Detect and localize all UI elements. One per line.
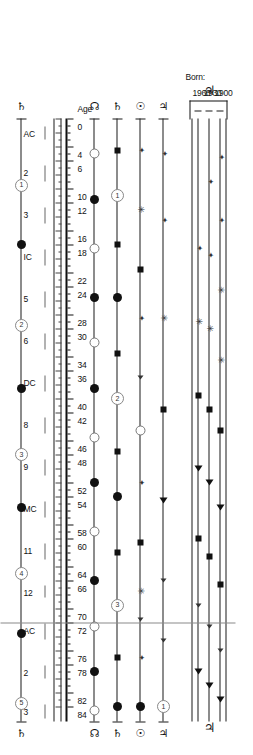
house-label-0: AC — [23, 129, 34, 138]
house-rule-3 — [44, 249, 45, 265]
saturn-symbol: ♄ — [112, 101, 122, 112]
age-minor-tick-67 — [58, 587, 61, 588]
marker-row-moon-12 — [89, 705, 99, 715]
age-tick-75 — [67, 643, 70, 644]
age-minor-tick-33 — [58, 349, 61, 350]
age-minor-tick-48 — [55, 454, 61, 455]
age-minor-tick-20 — [55, 258, 61, 259]
marker-cohort-1930-3 — [206, 406, 212, 412]
marker-row-saturn-4 — [114, 350, 120, 356]
age-tick-69 — [67, 601, 70, 602]
age-tick-68 — [67, 594, 70, 595]
house-label-4: 5 — [23, 294, 28, 303]
age-tick-label-40: 40 — [77, 402, 86, 411]
age-tick-47 — [67, 447, 70, 448]
age-tick-83 — [67, 699, 70, 700]
age-minor-tick-12 — [55, 202, 61, 203]
marker-row-saturn-6 — [114, 448, 120, 454]
age-minor-tick-51 — [58, 475, 61, 476]
marker-cohort-1960-5 — [195, 603, 201, 607]
age-tick-60 — [67, 538, 73, 539]
age-tick-label-22: 22 — [77, 276, 86, 285]
age-tick-46 — [67, 440, 73, 441]
age-minor-tick-41 — [58, 405, 61, 406]
age-tick-29 — [67, 321, 70, 322]
marker-cohort-1960-0: ✦ — [194, 244, 202, 251]
age-minor-tick-76 — [55, 650, 61, 651]
rail-row-jupiter — [162, 118, 163, 721]
age-tick-51 — [67, 475, 70, 476]
house-label-10: 11 — [23, 546, 31, 555]
age-minor-tick-77 — [58, 657, 61, 658]
age-minor-tick-65 — [58, 573, 61, 574]
age-tick-66 — [67, 580, 73, 581]
rail-cap-right-row-saturn — [112, 721, 122, 722]
age-minor-tick-37 — [58, 377, 61, 378]
age-tick-84 — [67, 706, 73, 707]
age-tick-61 — [67, 545, 70, 546]
marker-cohort-1900-3: ✳ — [216, 356, 225, 364]
marker-row-moon-2 — [89, 243, 99, 253]
rail-cap-right-row-moon — [89, 721, 99, 722]
marker-row-saturn-1: 1 — [111, 189, 124, 202]
age-minor-tick-24 — [55, 286, 61, 287]
marker-row-saturn-10 — [114, 654, 120, 660]
marker-row-saturn-7 — [113, 492, 122, 501]
age-tick-70 — [67, 608, 73, 609]
rail-cap-right-row-sun — [135, 721, 145, 722]
age-tick-55 — [67, 503, 70, 504]
age-tick-9 — [67, 181, 70, 182]
age-tick-label-46: 46 — [77, 444, 86, 453]
age-tick-43 — [67, 419, 70, 420]
age-tick-35 — [67, 363, 70, 364]
age-tick-label-42: 42 — [77, 416, 86, 425]
age-minor-tick-75 — [58, 643, 61, 644]
age-minor-tick-19 — [58, 251, 61, 252]
age-tick-77 — [67, 657, 70, 658]
marker-row-sun-9 — [137, 617, 143, 621]
age-minor-tick-64 — [55, 566, 61, 567]
age-minor-tick-80 — [55, 678, 61, 679]
age-tick-5 — [67, 153, 70, 154]
age-tick-67 — [67, 587, 70, 588]
age-minor-tick-26 — [55, 300, 61, 301]
rail-cap-right-row-jupiter — [158, 721, 168, 722]
age-minor-tick-53 — [58, 489, 61, 490]
age-tick-52 — [67, 482, 73, 483]
age-minor-tick-29 — [58, 321, 61, 322]
marker-row-moon-9 — [90, 576, 99, 585]
marker-cohort-1930-1: ✦ — [205, 251, 213, 258]
age-tick-26 — [67, 300, 70, 301]
age-tick-label-0: 0 — [77, 122, 82, 131]
age-minor-tick-59 — [58, 531, 61, 532]
age-tick-25 — [67, 293, 70, 294]
age-minor-tick-2 — [55, 132, 61, 133]
age-tick-7 — [67, 167, 70, 168]
age-minor-tick-82 — [55, 692, 61, 693]
marker-row-moon-3 — [90, 292, 99, 301]
marker-value: 5 — [19, 699, 23, 706]
house-label-5: 6 — [23, 336, 28, 345]
age-tick-18 — [67, 244, 73, 245]
age-minor-tick-73 — [58, 629, 61, 630]
age-minor-tick-62 — [55, 552, 61, 553]
house-label-12: AC — [23, 626, 34, 635]
age-tick-label-48: 48 — [77, 458, 86, 467]
age-minor-tick-79 — [58, 671, 61, 672]
age-minor-tick-21 — [58, 265, 61, 266]
jupiter-symbol: ♃ — [158, 101, 168, 112]
age-tick-label-18: 18 — [77, 248, 86, 257]
house-rule-0 — [44, 126, 45, 139]
house-rule-11 — [44, 585, 45, 598]
marker-cohort-1930-7 — [205, 682, 213, 688]
marker-row-saturn-8 — [114, 549, 120, 555]
marker-row-saturn-9: 3 — [111, 598, 124, 611]
age-tick-label-82: 82 — [77, 696, 86, 705]
age-tick-label-10: 10 — [77, 192, 86, 201]
age-tick-37 — [67, 377, 70, 378]
age-tick-label-34: 34 — [77, 360, 86, 369]
marker-cohort-1900-2: ✳ — [216, 286, 225, 294]
marker-row-jupiter-4 — [159, 497, 167, 503]
age-tick-41 — [67, 405, 70, 406]
age-tick-label-78: 78 — [77, 668, 86, 677]
